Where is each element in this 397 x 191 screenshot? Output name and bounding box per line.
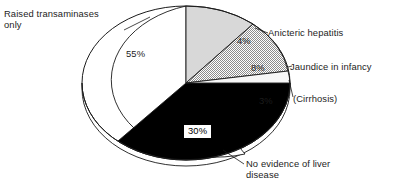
slice-label-cirrhosis: (Cirrhosis) xyxy=(293,93,393,104)
pie-chart: Raised transaminases only Anicteric hepa… xyxy=(0,0,397,191)
slice-value-no-evidence-of-liver-disease: 30% xyxy=(183,124,212,139)
slice-label-raised-transaminases-only: Raised transaminases only xyxy=(4,8,124,31)
slice-value-anicteric-hepatitis: 4% xyxy=(237,36,251,46)
slice-label-no-evidence-of-liver-disease: No evidence of liver disease xyxy=(246,158,396,181)
slice-value-jaundice-in-infancy: 8% xyxy=(251,63,265,73)
slice-label-anicteric-hepatitis: Anicteric hepatitis xyxy=(268,27,396,38)
slice-value-raised-transaminases-only: 55% xyxy=(126,49,145,59)
slice-value-cirrhosis: 3% xyxy=(259,96,273,106)
slice-label-jaundice-in-infancy: Jaundice in infancy xyxy=(290,61,396,72)
